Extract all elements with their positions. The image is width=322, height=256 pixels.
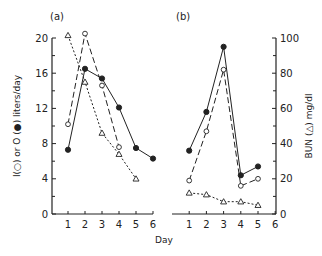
open-circle-marker bbox=[83, 31, 88, 36]
x-axis-title: Day bbox=[155, 235, 173, 245]
y-tick-label: 12 bbox=[35, 103, 48, 114]
y-tick-label: 60 bbox=[280, 103, 293, 114]
filled-circle-marker bbox=[116, 105, 121, 110]
panel-b-plot: 123456020406080100 bbox=[172, 33, 299, 231]
open-circle-marker bbox=[117, 145, 122, 150]
filled-circle-marker bbox=[65, 147, 70, 152]
filled-circle-marker bbox=[133, 145, 138, 150]
open-circle-marker bbox=[100, 83, 105, 88]
series-line bbox=[68, 35, 136, 178]
series-line bbox=[189, 47, 258, 175]
x-tick-label: 1 bbox=[186, 219, 192, 230]
x-tick-label: 4 bbox=[238, 219, 244, 230]
x-tick-label: 3 bbox=[220, 219, 226, 230]
figure: (a) (b) Day I(○) or O (●) liters/day BUN… bbox=[0, 0, 322, 256]
left-y-axis-title: I(○) or O (●) liters/day bbox=[12, 74, 22, 177]
open-triangle-marker bbox=[116, 151, 122, 156]
series-line bbox=[68, 34, 119, 148]
y-tick-label: 8 bbox=[42, 138, 48, 149]
open-triangle-marker bbox=[99, 130, 105, 135]
open-triangle-marker bbox=[65, 32, 71, 37]
filled-circle-marker bbox=[255, 164, 260, 169]
panel-a-plot: 123456048121620 bbox=[35, 31, 156, 230]
open-triangle-marker bbox=[186, 190, 192, 195]
y-tick-label: 0 bbox=[42, 209, 48, 220]
open-circle-marker bbox=[187, 178, 192, 183]
y-tick-label: 20 bbox=[280, 173, 293, 184]
x-tick-label: 5 bbox=[133, 219, 139, 230]
x-tick-label: 4 bbox=[116, 219, 122, 230]
x-tick-label: 5 bbox=[255, 219, 261, 230]
y-tick-label: 0 bbox=[280, 209, 286, 220]
y-tick-label: 80 bbox=[280, 68, 293, 79]
y-tick-label: 40 bbox=[280, 138, 293, 149]
chart-canvas: (a) (b) Day I(○) or O (●) liters/day BUN… bbox=[0, 0, 322, 256]
open-triangle-marker bbox=[238, 199, 244, 204]
panel-b-label: (b) bbox=[176, 11, 190, 22]
open-circle-marker bbox=[238, 183, 243, 188]
x-tick-label: 2 bbox=[203, 219, 209, 230]
y-tick-label: 4 bbox=[42, 173, 48, 184]
open-circle-marker bbox=[204, 129, 209, 134]
filled-circle-marker bbox=[187, 148, 192, 153]
x-tick-label: 1 bbox=[65, 219, 71, 230]
filled-circle-marker bbox=[150, 156, 155, 161]
open-triangle-marker bbox=[203, 192, 209, 197]
open-circle-marker bbox=[66, 122, 71, 127]
y-tick-label: 100 bbox=[280, 33, 299, 44]
filled-circle-marker bbox=[204, 109, 209, 114]
panel-a-label: (a) bbox=[50, 11, 64, 22]
open-circle-marker bbox=[221, 67, 226, 72]
series-line bbox=[68, 69, 153, 159]
x-tick-label: 2 bbox=[82, 219, 88, 230]
y-tick-label: 16 bbox=[35, 68, 48, 79]
filled-circle-marker bbox=[82, 66, 87, 71]
x-tick-label: 3 bbox=[99, 219, 105, 230]
x-tick-label: 6 bbox=[272, 219, 278, 230]
right-y-axis-title: BUN (△) mg/dl bbox=[304, 94, 314, 159]
x-tick-label: 6 bbox=[150, 219, 156, 230]
filled-circle-marker bbox=[221, 44, 226, 49]
open-circle-marker bbox=[256, 176, 261, 181]
y-tick-label: 20 bbox=[35, 33, 48, 44]
